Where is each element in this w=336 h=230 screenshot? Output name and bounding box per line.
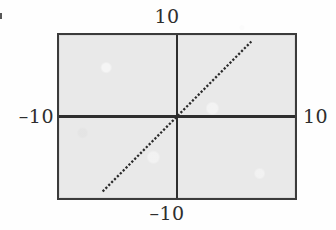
axis-label-right: 10 — [303, 107, 333, 126]
figure-container: 10 –10 10 –10 — [0, 0, 336, 230]
axis-label-left: –10 — [6, 107, 54, 126]
axis-label-top: 10 — [0, 7, 335, 26]
axis-label-bottom: –10 — [0, 204, 335, 223]
plot-canvas — [59, 35, 295, 198]
plot-frame — [57, 33, 297, 200]
